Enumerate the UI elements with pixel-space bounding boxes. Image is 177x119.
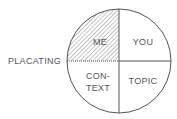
quadrant-label-you: YOU (133, 37, 153, 47)
quadrant-label-context-line2: TEXT (86, 83, 110, 93)
quadrant-label-context-line1: CON- (86, 71, 110, 81)
placating-diagram: ME YOU CON- TEXT TOPIC PLACATING (0, 0, 177, 119)
side-label-placating: PLACATING (8, 56, 61, 66)
quadrant-me-hatched (67, 9, 119, 61)
quadrant-label-me: ME (93, 37, 107, 47)
quadrant-label-topic: TOPIC (129, 76, 158, 86)
